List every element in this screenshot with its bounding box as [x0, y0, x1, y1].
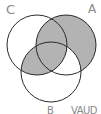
label-a: A: [88, 3, 96, 15]
venn-diagram: [0, 0, 101, 114]
set-expression-label: VAUD: [71, 106, 97, 114]
label-c: C: [6, 3, 15, 16]
label-b: B: [47, 106, 54, 114]
